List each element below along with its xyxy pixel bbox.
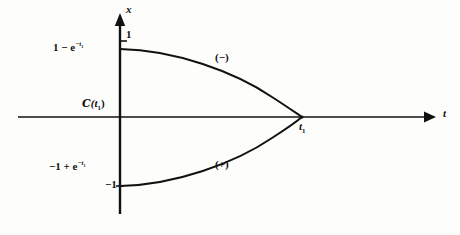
x-axis-label: x — [126, 4, 132, 15]
lower-intercept-label: −1 + e−t1 — [49, 160, 86, 172]
lower-branch-sign-label: (+) — [215, 159, 229, 170]
reachable-set-arg-open: (t — [91, 97, 98, 109]
meeting-point-marker — [300, 115, 303, 118]
upper-intercept-main: 1 − e — [53, 41, 75, 53]
tick-label-one: 1 — [126, 29, 132, 40]
reachable-set-label: C(t1) — [82, 98, 105, 112]
lower-boundary-curve — [120, 117, 302, 186]
figure-canvas — [0, 0, 460, 235]
upper-boundary-curve — [120, 49, 302, 117]
reachable-set-arg-close: ) — [101, 97, 105, 109]
meeting-point-subscript: 1 — [302, 127, 305, 134]
upper-intercept-label: 1 − e−t1 — [53, 41, 83, 53]
lower-intercept-exponent-subscript: 1 — [83, 163, 85, 168]
tick-label-negative-one: −1 — [105, 179, 117, 190]
t-axis-label: t — [443, 108, 446, 119]
lower-intercept-main: −1 + e — [49, 160, 77, 172]
reachable-set-figure: x t 1 −1 1 − e−t1 −1 + e−t1 C(t1) (−) (+… — [0, 0, 460, 235]
upper-intercept-exponent: −t1 — [75, 40, 83, 47]
reachable-set-symbol: C — [82, 97, 91, 110]
upper-branch-sign-label: (−) — [215, 52, 229, 63]
meeting-point-label: t1 — [299, 121, 305, 135]
lower-intercept-exponent: −t1 — [77, 159, 85, 166]
upper-intercept-exponent-subscript: 1 — [81, 44, 83, 49]
t-axis-arrowhead — [424, 112, 436, 123]
x-axis-arrowhead — [115, 13, 125, 26]
